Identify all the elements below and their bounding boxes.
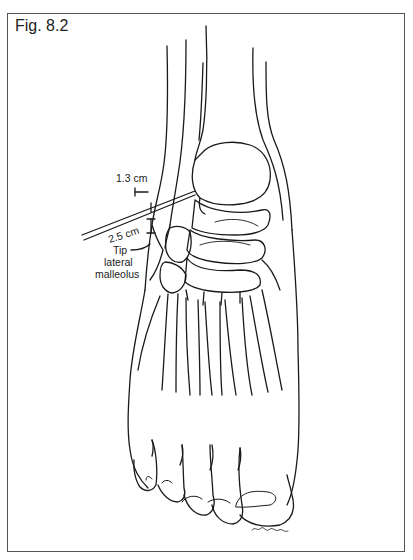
foot-outline: [128, 230, 299, 505]
leg-outline: [145, 26, 292, 290]
toes: [134, 440, 294, 526]
label-malleolus: malleolus: [95, 268, 139, 280]
talus-bone: [192, 142, 270, 214]
label-2-5cm: 2.5 cm: [107, 224, 141, 245]
label-tip: Tip: [113, 244, 127, 256]
label-lateral: lateral: [104, 256, 133, 268]
foot-ankle-illustration: 1.3 cm 2.5 cm Tip lateral malleolus: [0, 0, 413, 560]
marker-1-3cm: [135, 188, 148, 196]
leader-line: [131, 244, 150, 250]
label-1-3cm: 1.3 cm: [116, 172, 148, 184]
tarsal-bones: [160, 200, 270, 305]
artist-signature: [252, 528, 288, 532]
